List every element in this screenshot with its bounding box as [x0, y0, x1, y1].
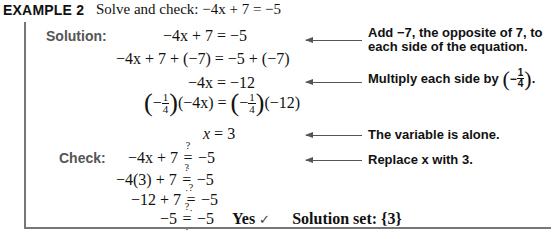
arrow-left-icon — [306, 160, 362, 161]
check-lhs: −4(3) + 7 — [116, 171, 177, 188]
step-rhs: −5 — [230, 27, 247, 44]
check-lhs: −12 + 7 — [131, 191, 181, 208]
annotation-line-2: each side of the equation. — [368, 40, 542, 54]
arrow-left-icon — [306, 40, 362, 41]
check-rhs: −5 — [201, 191, 218, 208]
solution-label: Solution: — [46, 28, 107, 44]
step-lhs: −4x + 7 + (−7) — [116, 50, 211, 67]
solution-set-label: Solution set: — [292, 210, 377, 227]
step-lhs: −4x — [188, 74, 213, 91]
check-label: Check: — [59, 150, 106, 166]
step-rhs: 3 — [227, 125, 235, 142]
step-lhs: x — [203, 125, 210, 142]
step-lhs: (−4x) — [178, 94, 214, 111]
questioned-equals-icon: ?=· — [181, 210, 193, 228]
check-rhs: −5 — [197, 210, 214, 227]
annotation-line-1: Add −7, the opposite of 7, to — [368, 26, 542, 40]
check-lhs: −4x + 7 — [128, 149, 178, 166]
step-lhs: −4x + 7 — [163, 27, 213, 44]
solution-set-value: {3} — [381, 210, 402, 227]
left-border-rule — [24, 22, 26, 229]
example-instruction: Solve and check: −4x + 7 = −5 — [96, 1, 281, 18]
check-step-3: −12 + 7 ?=· −5 — [131, 191, 218, 209]
check-step-2: −4(3) + 7 ?=· −5 — [116, 171, 214, 189]
arrow-left-icon — [306, 82, 362, 83]
check-rhs: −5 — [197, 171, 214, 188]
check-step-1: −4x + 7 ?=· −5 — [128, 149, 215, 167]
annotation-replace-x: Replace x with 3. — [368, 153, 473, 167]
example-equation: −4x + 7 = −5 — [202, 1, 281, 17]
solution-step-4: (−14)(−4x) = (−14)(−12) — [144, 90, 300, 116]
annotation-variable-alone: The variable is alone. — [368, 128, 500, 142]
arrow-left-icon — [306, 135, 362, 136]
check-lhs: −5 — [160, 210, 177, 227]
solution-step-2: −4x + 7 + (−7) = −5 + (−7) — [116, 50, 290, 68]
step-rhs: (−12) — [264, 94, 300, 111]
example-label: EXAMPLE 2 — [3, 2, 84, 18]
check-mark-icon: ✓ — [259, 212, 270, 227]
instruction-text: Solve and check: — [96, 1, 198, 17]
step-rhs: −5 + (−7) — [228, 50, 290, 67]
annotation-text: Multiply each side by — [368, 71, 499, 86]
check-step-4: −5 ?=· −5 Yes ✓ Solution set: {3} — [160, 210, 402, 228]
solution-step-1: −4x + 7 = −5 — [163, 27, 247, 45]
fraction: 14 — [248, 92, 256, 115]
check-result: Yes — [232, 210, 255, 227]
annotation-add-opposite: Add −7, the opposite of 7, to each side … — [368, 26, 542, 54]
solution-step-5: x = 3 — [203, 125, 235, 143]
annotation-multiply: Multiply each side by (−14). — [368, 68, 535, 89]
check-rhs: −5 — [198, 149, 215, 166]
